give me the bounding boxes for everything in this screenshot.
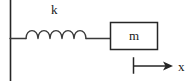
displacement-axis-label: x — [178, 60, 185, 73]
diagram-canvas — [0, 0, 192, 81]
spring-coils — [26, 31, 86, 39]
mass-spring-diagram: k m x — [0, 0, 192, 81]
mass-label: m — [129, 29, 139, 42]
spring-constant-label: k — [51, 3, 58, 16]
